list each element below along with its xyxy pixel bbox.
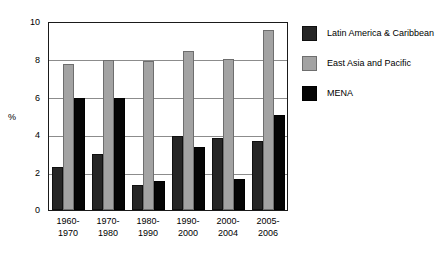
y-tick-label-4: 4 [14,131,40,140]
bar [234,179,245,210]
bar [92,154,103,210]
legend-item: MENA [302,78,438,108]
bar [212,138,223,210]
legend-swatch [302,56,317,71]
x-axis-label: 1990-2000 [169,216,207,239]
x-axis-label-line: 2004 [209,228,247,240]
y-tick-label-6: 6 [14,94,40,103]
legend-item: East Asia and Pacific [302,48,438,78]
bar [194,147,205,210]
x-axis-label: 2005-2006 [249,216,287,239]
bar-group [92,23,125,210]
x-axis-label-line: 2006 [249,228,287,240]
y-axis-title: % [8,113,16,122]
bar [252,141,263,210]
x-axis-label: 1970-1980 [89,216,127,239]
x-axis-label-line: 1960- [49,216,87,228]
legend-swatch [302,86,317,101]
legend-item: Latin America & Caribbean [302,18,438,48]
x-axis-label-line: 2000 [169,228,207,240]
x-axis-labels: 1960-19701970-19801980-19901990-20002000… [48,216,288,239]
bar [74,98,85,210]
x-axis-label-line: 1970- [89,216,127,228]
x-axis-label-line: 2005- [249,216,287,228]
x-axis-label-line: 1980- [129,216,167,228]
x-axis-label-line: 1970 [49,228,87,240]
bar [183,51,194,210]
x-axis-label-line: 1990- [169,216,207,228]
bar [274,115,285,210]
legend-label: Latin America & Caribbean [327,28,434,38]
bar-group [172,23,205,210]
bar [154,181,165,210]
x-axis-label: 2000-2004 [209,216,247,239]
legend-label: MENA [327,88,353,98]
bars-layer [49,23,287,210]
x-axis-label: 1960-1970 [49,216,87,239]
bar [172,136,183,210]
bar [114,98,125,210]
legend-swatch [302,26,317,41]
x-axis-label-line: 1990 [129,228,167,240]
y-tick-label-2: 2 [14,169,40,178]
bar [52,167,63,210]
bar [132,185,143,210]
bar-chart: % 10 8 6 4 2 0 1960-19701970-19801980-19… [0,0,440,261]
bar [263,30,274,210]
plot-area [48,22,288,211]
legend: Latin America & CaribbeanEast Asia and P… [302,18,438,108]
y-tick-label-0: 0 [14,206,40,215]
legend-label: East Asia and Pacific [327,58,411,68]
bar [143,61,154,210]
bar [63,64,74,210]
bar-group [132,23,165,210]
bar [223,59,234,210]
x-axis-label-line: 2000- [209,216,247,228]
y-tick-label-10: 10 [14,18,40,27]
bar-group [212,23,245,210]
bar [103,60,114,210]
y-tick-label-8: 8 [14,56,40,65]
bar-group [52,23,85,210]
bar-group [252,23,285,210]
x-axis-label: 1980-1990 [129,216,167,239]
x-axis-label-line: 1980 [89,228,127,240]
